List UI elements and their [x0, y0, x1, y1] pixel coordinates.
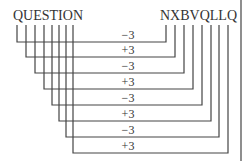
shift-label-5: −3: [108, 92, 148, 104]
shift-label-3: −3: [108, 60, 148, 72]
shift-label-8: +3: [108, 140, 148, 152]
shift-label-6: +3: [108, 108, 148, 120]
shift-label-1: −3: [108, 29, 148, 41]
shift-label-4: +3: [108, 76, 148, 88]
shift-label-7: −3: [108, 124, 148, 136]
cipher-diagram: QUESTION NXBVQLLQ −3 +3 −3 +3 −3 +3 −3 +…: [0, 0, 245, 161]
shift-label-2: +3: [108, 44, 148, 56]
